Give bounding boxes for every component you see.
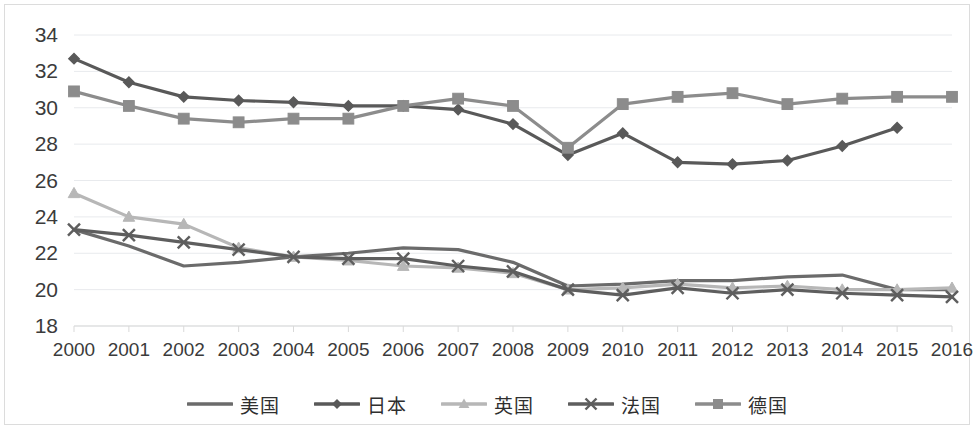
legend-marker-square-icon bbox=[695, 396, 741, 412]
data-point-marker bbox=[68, 187, 80, 197]
legend-item-1[interactable]: 美国 bbox=[187, 391, 280, 418]
series-line bbox=[74, 59, 897, 164]
y-axis-tick-label: 28 bbox=[35, 132, 58, 155]
data-point-marker bbox=[343, 113, 354, 124]
legend-item-3[interactable]: 英国 bbox=[441, 391, 534, 418]
x-axis-tick-label: 2011 bbox=[657, 339, 698, 360]
x-axis-tick-label: 2007 bbox=[437, 339, 479, 360]
data-point-marker bbox=[233, 117, 244, 128]
data-point-marker bbox=[892, 91, 903, 102]
x-axis-tick-label: 2016 bbox=[931, 339, 973, 360]
x-axis-tick-label: 2013 bbox=[766, 339, 808, 360]
x-axis-tick-label: 2015 bbox=[876, 339, 918, 360]
x-axis-tick-label: 2012 bbox=[711, 339, 753, 360]
x-axis-tick-label: 2010 bbox=[602, 339, 644, 360]
legend-item-2[interactable]: 日本 bbox=[314, 391, 407, 418]
data-point-marker bbox=[453, 104, 463, 114]
y-axis-tick-label: 26 bbox=[35, 169, 58, 192]
series-2 bbox=[69, 53, 903, 169]
data-point-marker bbox=[453, 93, 464, 104]
x-axis-tick-label: 2003 bbox=[217, 339, 259, 360]
x-axis-tick-labels: 2000200120022003200420052006200720082009… bbox=[53, 339, 973, 360]
x-axis-tick-label: 2002 bbox=[163, 339, 205, 360]
legend-marker-none-icon bbox=[187, 396, 233, 412]
legend-label: 法国 bbox=[621, 391, 661, 418]
x-axis-tick-label: 2014 bbox=[821, 339, 864, 360]
legend-item-5[interactable]: 德国 bbox=[695, 391, 788, 418]
series-1 bbox=[74, 230, 952, 290]
data-series-group bbox=[68, 53, 958, 302]
data-point-marker bbox=[672, 91, 683, 102]
line-chart-plot: 182022242628303234 200020012002200320042… bbox=[0, 0, 974, 429]
legend-label: 美国 bbox=[240, 391, 280, 418]
legend-marker-diamond-icon bbox=[314, 396, 360, 412]
data-point-marker bbox=[837, 141, 847, 151]
data-point-marker bbox=[69, 53, 79, 63]
y-axis-tick-label: 32 bbox=[35, 59, 58, 82]
x-axis-tick-label: 2009 bbox=[547, 339, 589, 360]
x-axis-tick-label: 2004 bbox=[272, 339, 315, 360]
y-axis-tick-label: 22 bbox=[35, 241, 58, 264]
legend-item-4[interactable]: 法国 bbox=[568, 391, 661, 418]
chart-legend: 美国日本英国法国德国 bbox=[0, 386, 974, 422]
legend-marker-cross-icon bbox=[568, 396, 614, 412]
data-point-marker bbox=[617, 99, 628, 110]
data-point-marker bbox=[178, 113, 189, 124]
y-axis-tick-label: 24 bbox=[35, 205, 59, 228]
data-point-marker bbox=[179, 92, 189, 102]
data-point-marker bbox=[288, 113, 299, 124]
legend-label: 日本 bbox=[367, 391, 407, 418]
data-point-marker bbox=[782, 99, 793, 110]
series-line bbox=[74, 230, 952, 290]
data-point-marker bbox=[233, 95, 243, 105]
data-point-marker bbox=[398, 101, 409, 112]
data-point-marker bbox=[892, 123, 902, 133]
x-axis-tick-label: 2000 bbox=[53, 339, 95, 360]
legend-label: 德国 bbox=[748, 391, 788, 418]
data-point-marker bbox=[947, 91, 958, 102]
y-axis-tick-labels: 182022242628303234 bbox=[35, 23, 59, 337]
data-point-marker bbox=[508, 101, 519, 112]
data-point-marker bbox=[124, 77, 134, 87]
data-point-marker bbox=[727, 88, 738, 99]
x-axis-tick-label: 2006 bbox=[382, 339, 424, 360]
series-3 bbox=[68, 187, 958, 294]
legend-marker-triangle-icon bbox=[441, 396, 487, 412]
data-point-marker bbox=[727, 159, 737, 169]
data-point-marker bbox=[837, 93, 848, 104]
legend-label: 英国 bbox=[494, 391, 534, 418]
y-axis-tick-label: 20 bbox=[35, 278, 58, 301]
x-axis-tick-label: 2001 bbox=[108, 339, 150, 360]
data-point-marker bbox=[343, 101, 353, 111]
chart-container: 182022242628303234 200020012002200320042… bbox=[0, 0, 974, 429]
data-point-marker bbox=[288, 97, 298, 107]
x-axis-tick-label: 2005 bbox=[327, 339, 369, 360]
data-point-marker bbox=[562, 142, 573, 153]
data-point-marker bbox=[782, 155, 792, 165]
x-axis-tick-label: 2008 bbox=[492, 339, 534, 360]
data-point-marker bbox=[123, 101, 134, 112]
y-axis-tick-label: 34 bbox=[35, 23, 59, 46]
y-axis-tick-label: 30 bbox=[35, 96, 58, 119]
data-point-marker bbox=[69, 86, 80, 97]
y-axis-tick-label: 18 bbox=[35, 314, 58, 337]
